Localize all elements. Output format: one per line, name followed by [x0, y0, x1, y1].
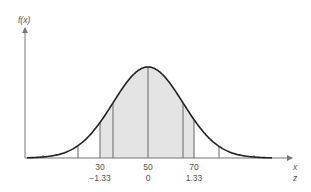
vertical-lines	[78, 67, 219, 158]
tick-label-70: 70	[189, 162, 199, 172]
tick-label-50: 50	[143, 162, 153, 172]
x-axis-label: x	[292, 162, 298, 172]
tick-label-30: 30	[95, 162, 105, 172]
z-axis-label: z	[292, 173, 298, 183]
z-label-0: 0	[146, 173, 151, 183]
z-label-pos: 1.33	[186, 173, 203, 183]
shaded-area	[100, 67, 194, 158]
z-label-neg: −1.33	[89, 173, 111, 183]
y-axis-label: f(x)	[18, 15, 30, 25]
normal-distribution-chart: f(x) x z 30 50 70 −1.33 0 1.33	[0, 0, 311, 192]
